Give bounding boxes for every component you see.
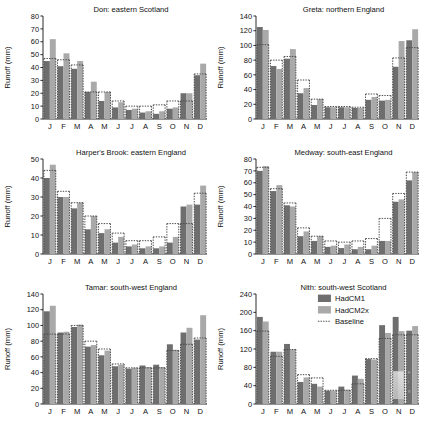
bar-hadcm1 (393, 202, 399, 254)
y-tick-label: 0 (248, 115, 252, 124)
bar-hadcm2x (412, 172, 418, 254)
bar-hadcm1 (71, 208, 77, 254)
x-tick-label-F: F (274, 257, 279, 266)
bar-hadcm1 (99, 101, 105, 119)
bar-hadcm2x (385, 100, 391, 119)
bar-hadcm1 (257, 317, 263, 404)
panel-2: Greta: northern EnglandRunoff (mm)020406… (213, 0, 425, 143)
chart-panel-2: Greta: northern EnglandRunoff (mm)020406… (213, 0, 425, 143)
bar-hadcm1 (406, 40, 412, 119)
bar-hadcm2x (64, 53, 70, 119)
panel-title: Tamar: south-west England (85, 283, 177, 292)
x-tick-label-J: J (261, 407, 265, 416)
bar-hadcm1 (167, 243, 173, 254)
x-tick-label-A: A (88, 257, 94, 266)
bar-hadcm2x (50, 165, 56, 254)
y-tick-label: 0 (248, 250, 252, 259)
x-tick-label-J: J (48, 407, 52, 416)
y-tick-label: 80 (244, 56, 252, 65)
bar-hadcm2x (173, 107, 179, 119)
y-tick-label: 70 (31, 25, 39, 34)
y-tick-label: 80 (244, 155, 252, 164)
legend-label-hadcm2x: HadCM2x (335, 306, 369, 315)
edge-caption-line: F (408, 368, 424, 377)
x-tick-label-J: J (329, 122, 333, 131)
bar-hadcm2x (344, 390, 350, 404)
bar-hadcm2x (64, 197, 70, 254)
x-tick-label-S: S (157, 122, 162, 131)
y-tick-label: 30 (244, 214, 252, 223)
x-tick-label-A: A (143, 407, 149, 416)
bar-hadcm1 (284, 344, 290, 404)
edge-caption-line: g (408, 386, 424, 395)
x-tick-label-F: F (274, 407, 279, 416)
bar-hadcm1 (352, 249, 358, 254)
bar-hadcm2x (304, 377, 310, 404)
bar-hadcm2x (64, 332, 70, 404)
y-tick-label: 50 (244, 190, 252, 199)
bar-hadcm2x (317, 236, 323, 254)
panel-title: Harper's Brook: eastern England (76, 148, 186, 157)
bar-hadcm1 (298, 382, 304, 404)
x-tick-label-M: M (74, 407, 80, 416)
bar-hadcm1 (338, 107, 344, 119)
y-tick-label: 160 (240, 326, 252, 335)
scrollbar-artifact[interactable] (393, 371, 404, 399)
y-tick-label: 120 (240, 26, 252, 35)
x-tick-label-J: J (116, 122, 120, 131)
bar-hadcm1 (366, 100, 372, 119)
y-tick-label: 10 (31, 231, 39, 240)
x-tick-label-J: J (48, 122, 52, 131)
y-tick-label: 20 (244, 100, 252, 109)
x-tick-label-J: J (261, 257, 265, 266)
bar-hadcm2x (77, 203, 83, 254)
bar-hadcm1 (140, 366, 146, 405)
y-axis-label: Runoff (mm) (216, 46, 225, 89)
bar-hadcm2x (358, 108, 364, 119)
y-tick-label: 20 (31, 212, 39, 221)
bar-hadcm2x (187, 205, 193, 254)
edge-caption-line: i (408, 377, 424, 386)
x-tick-label-J: J (329, 257, 333, 266)
bar-hadcm2x (371, 246, 377, 254)
bar-hadcm2x (77, 325, 83, 404)
panel-title: Medway: south-east England (295, 148, 393, 157)
legend-label-hadcm1: HadCM1 (335, 294, 365, 303)
bar-hadcm1 (393, 67, 399, 119)
bar-hadcm2x (263, 322, 269, 405)
bar-hadcm2x (263, 30, 269, 119)
panel-4: Medway: south-east EnglandRunoff (mm)010… (213, 143, 425, 278)
x-tick-label-F: F (61, 122, 66, 131)
bar-hadcm2x (118, 365, 124, 404)
x-tick-label-J: J (116, 407, 120, 416)
chart-panel-5: Tamar: south-west EnglandRunoff (mm)0204… (0, 278, 213, 428)
bar-hadcm2x (187, 328, 193, 404)
x-tick-label-M: M (74, 257, 80, 266)
bar-hadcm2x (276, 185, 282, 254)
chart-panel-1: Don: eastern ScotlandRunoff (mm)01020304… (0, 0, 213, 143)
y-tick-label: 200 (240, 308, 252, 317)
bar-hadcm2x (331, 391, 337, 404)
bar-hadcm1 (181, 93, 187, 119)
y-axis-label: Runoff (mm) (216, 328, 225, 371)
bar-hadcm1 (311, 105, 317, 119)
x-tick-label-O: O (170, 407, 176, 416)
bar-hadcm2x (132, 109, 138, 119)
x-tick-label-A: A (143, 122, 149, 131)
bar-hadcm1 (311, 241, 317, 254)
bar-hadcm2x (358, 379, 364, 404)
edge-caption: Fig. (408, 368, 424, 404)
bar-hadcm1 (71, 69, 77, 119)
y-tick-label: 80 (31, 12, 39, 21)
bar-hadcm1 (352, 376, 358, 404)
x-tick-label-S: S (369, 407, 374, 416)
x-tick-label-J: J (261, 122, 265, 131)
bar-hadcm1 (338, 248, 344, 254)
x-tick-label-M: M (101, 257, 107, 266)
bar-hadcm1 (126, 369, 132, 404)
x-tick-label-F: F (61, 257, 66, 266)
x-tick-label-S: S (369, 122, 374, 131)
y-tick-label: 10 (31, 102, 39, 111)
legend-label-baseline: Baseline (335, 317, 364, 326)
bar-hadcm1 (270, 352, 276, 404)
